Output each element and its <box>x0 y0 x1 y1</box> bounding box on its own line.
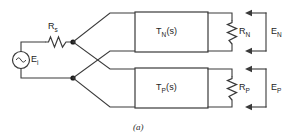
en-arrow-top-icon <box>245 10 252 16</box>
wire-topnode-to-tn-in1 <box>73 13 135 42</box>
circuit-schematic <box>0 0 287 136</box>
output-voltage-n-label: EN <box>271 27 282 36</box>
rp-label-sub: P <box>246 87 250 94</box>
output-voltage-p-label: EP <box>271 83 282 92</box>
rp-label-main: R <box>239 82 246 92</box>
figure-canvas: Ei Rs TN(s) TP(s) RN RP EN EP (a) <box>0 0 287 136</box>
wire-source-to-rs <box>21 42 45 52</box>
series-resistor-label-main: R <box>48 21 55 31</box>
source-label: Ei <box>31 55 39 64</box>
ep-arrow-top-icon <box>245 66 252 72</box>
en-label-sub: N <box>277 31 282 38</box>
figure-caption: (a) <box>133 122 144 132</box>
ep-arrow-bottom-icon <box>245 104 252 110</box>
series-resistor-label-sub: s <box>55 26 58 33</box>
load-resistor-p-symbol <box>227 76 236 100</box>
load-resistor-n-symbol <box>227 20 236 44</box>
en-arrow-bottom-icon <box>245 48 252 54</box>
series-resistor-rs-symbol <box>45 37 73 47</box>
series-resistor-label: Rs <box>48 22 58 31</box>
source-label-sub: i <box>37 59 39 66</box>
wire-tp-out-top-to-rp <box>208 69 232 76</box>
tn-label-tail: (s) <box>166 26 177 36</box>
load-resistor-p-label: RP <box>239 83 250 92</box>
wire-tp-out-bottom-to-rp <box>208 100 232 107</box>
rn-label-sub: N <box>246 31 251 38</box>
rn-label-main: R <box>239 26 246 36</box>
tp-label-tail: (s) <box>166 82 177 92</box>
ep-label-sub: P <box>277 87 281 94</box>
load-resistor-n-label: RN <box>239 27 250 36</box>
wire-bottomnode-to-tp-in2 <box>73 78 135 107</box>
wire-source-bottom-rail <box>21 69 73 79</box>
positive-branch-block-label: TP(s) <box>156 83 177 92</box>
wire-tn-out-bottom-to-rn <box>208 44 232 51</box>
wire-tn-out-top-to-rn <box>208 13 232 20</box>
negative-branch-block-label: TN(s) <box>156 27 177 36</box>
